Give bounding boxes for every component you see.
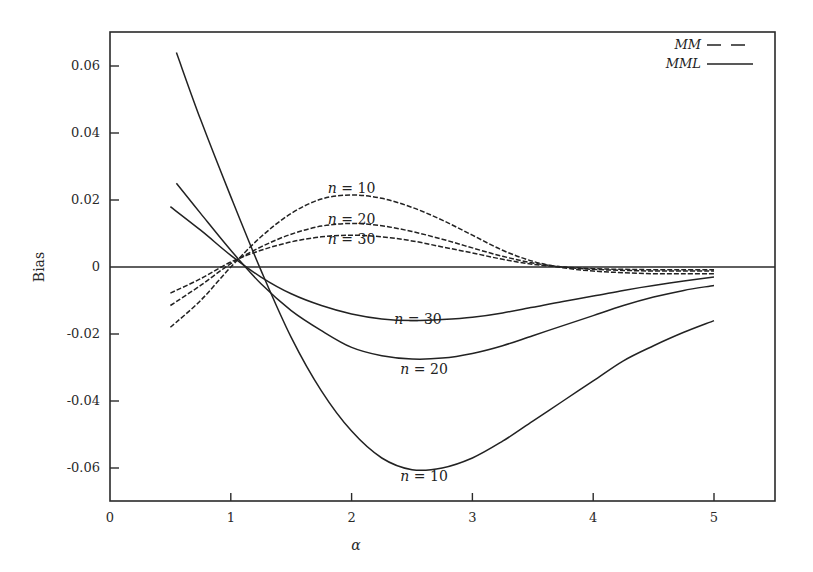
x-tick-label: 5 xyxy=(710,510,718,525)
curve-mm-n20 xyxy=(170,223,714,305)
x-tick-label: 1 xyxy=(227,510,235,525)
curve-annotation: n = 10 xyxy=(400,468,447,484)
bias-curves xyxy=(170,53,714,471)
legend-label-mml: MML xyxy=(665,56,701,71)
curve-annotation: n = 30 xyxy=(394,311,441,327)
bias-line-chart: 0.060.040.020-0.02-0.04-0.06 012345 n = … xyxy=(0,0,813,572)
legend: MM MML xyxy=(665,37,753,71)
x-tick-label: 3 xyxy=(468,510,476,525)
curve-mm-n30 xyxy=(170,235,714,293)
legend-label-mm: MM xyxy=(673,37,701,52)
y-tick-label: -0.06 xyxy=(67,460,100,475)
y-tick-label: 0.06 xyxy=(71,58,100,73)
y-tick-label: -0.04 xyxy=(67,393,100,408)
x-tick-label: 0 xyxy=(106,510,114,525)
y-tick-label: 0 xyxy=(92,259,100,274)
x-tick-label: 4 xyxy=(589,510,597,525)
x-axis-ticks: 012345 xyxy=(106,493,718,525)
curve-mml-n10 xyxy=(176,53,714,471)
curve-mml-n20 xyxy=(176,183,714,359)
x-axis-label: α xyxy=(351,537,361,553)
curve-annotation: n = 30 xyxy=(328,231,375,247)
y-tick-label: -0.02 xyxy=(67,326,100,341)
curve-annotation: n = 10 xyxy=(328,180,375,196)
curve-annotation: n = 20 xyxy=(328,211,375,227)
curve-mm-n10 xyxy=(170,195,714,327)
y-tick-label: 0.04 xyxy=(71,125,100,140)
y-tick-label: 0.02 xyxy=(71,192,100,207)
x-tick-label: 2 xyxy=(347,510,355,525)
curve-annotations: n = 10n = 20n = 30n = 30n = 20n = 10 xyxy=(328,180,448,484)
y-axis-label: Bias xyxy=(31,252,47,282)
curve-annotation: n = 20 xyxy=(400,361,447,377)
